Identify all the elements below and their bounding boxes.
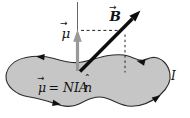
equation-mu: μ (38, 80, 46, 95)
mu-vector-label: μ (62, 25, 71, 41)
mu-vector-head (73, 30, 82, 42)
equation-n-hat-icon: ˆ (85, 73, 91, 86)
equation-middle: = NIA (49, 80, 88, 95)
current-label: I (170, 69, 176, 83)
diagram-canvas: → μ → B → μ = NIA n ˆ I (0, 0, 190, 118)
figure-current-loop-magnetic-moment: → μ → B → μ = NIA n ˆ I (0, 0, 190, 118)
b-vector-label: B (109, 8, 121, 24)
